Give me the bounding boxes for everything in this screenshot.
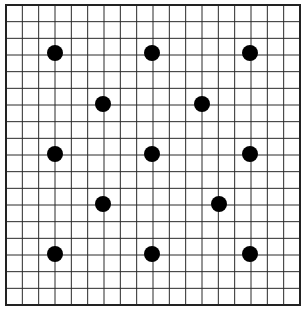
dot	[242, 45, 258, 61]
dot	[47, 246, 63, 262]
dot	[95, 196, 111, 212]
dot	[144, 146, 160, 162]
dot	[144, 45, 160, 61]
dot	[242, 246, 258, 262]
dot-grid-diagram	[0, 0, 304, 313]
dot	[47, 45, 63, 61]
dot	[95, 96, 111, 112]
dot	[211, 196, 227, 212]
dot	[194, 96, 210, 112]
dot	[47, 146, 63, 162]
dot	[242, 146, 258, 162]
dot	[144, 246, 160, 262]
